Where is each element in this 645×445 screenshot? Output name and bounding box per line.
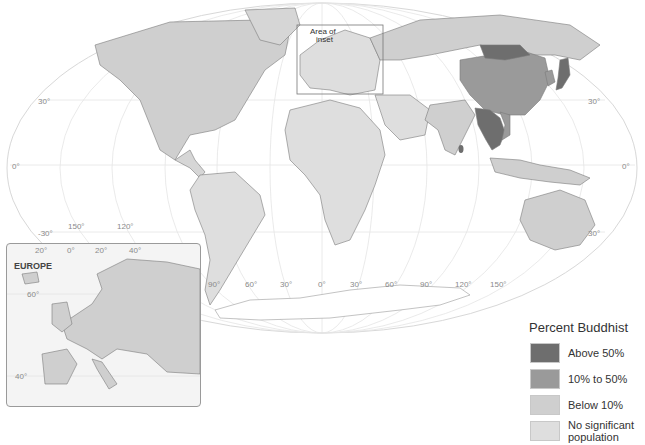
legend-label: 10% to 50% bbox=[568, 373, 627, 385]
lon-label: 90° bbox=[208, 280, 220, 289]
inset-lon-tick: 0° bbox=[67, 246, 75, 255]
inset-lon-tick: 20° bbox=[95, 246, 107, 255]
inset-area-label-2: inset bbox=[316, 35, 334, 44]
lon-label: 30° bbox=[280, 280, 292, 289]
lat-label: -30° bbox=[38, 229, 53, 238]
inset-title: EUROPE bbox=[14, 261, 52, 271]
lat-label: 0° bbox=[622, 162, 630, 171]
legend-swatch bbox=[530, 421, 560, 441]
legend-label: Below 10% bbox=[568, 399, 623, 411]
legend-label: No significant population bbox=[568, 419, 644, 443]
lon-label: 120° bbox=[117, 222, 134, 231]
legend-item-no-significant: No significant population bbox=[530, 419, 645, 443]
lon-label: 30° bbox=[350, 280, 362, 289]
legend-swatch bbox=[530, 343, 560, 363]
legend-swatch bbox=[530, 395, 560, 415]
legend-title: Percent Buddhist bbox=[529, 320, 645, 335]
inset-lon-tick: 40° bbox=[129, 246, 141, 255]
legend-item-above-50: Above 50% bbox=[530, 341, 645, 365]
legend-item-10-50: 10% to 50% bbox=[530, 367, 645, 391]
lon-label: 90° bbox=[420, 280, 432, 289]
inset-lat-tick: 40° bbox=[15, 372, 27, 381]
lon-label: 60° bbox=[245, 280, 257, 289]
lat-label: 30° bbox=[588, 97, 600, 106]
sri-lanka bbox=[459, 145, 464, 153]
lon-label: 150° bbox=[490, 280, 507, 289]
legend-label: Above 50% bbox=[568, 347, 624, 359]
legend-swatch bbox=[530, 369, 560, 389]
lon-label: 0° bbox=[318, 280, 326, 289]
lon-label: 60° bbox=[385, 280, 397, 289]
lat-label: 30° bbox=[588, 229, 600, 238]
legend-item-below-10: Below 10% bbox=[530, 393, 645, 417]
europe-inset: EUROPE 20° 0° 20° 40° 60° 40° bbox=[6, 243, 201, 407]
legend: Percent Buddhist Above 50% 10% to 50% Be… bbox=[530, 320, 645, 445]
lat-label: 30° bbox=[38, 97, 50, 106]
lat-label: 0° bbox=[12, 162, 20, 171]
inset-lat-tick: 60° bbox=[27, 290, 39, 299]
inset-lon-tick: 20° bbox=[35, 246, 47, 255]
lon-label: 120° bbox=[455, 280, 472, 289]
lon-label: 150° bbox=[68, 222, 85, 231]
